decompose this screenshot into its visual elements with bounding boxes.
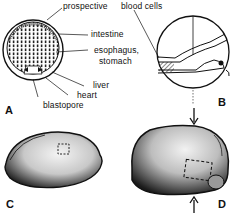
panel-label-c: C bbox=[6, 198, 14, 210]
panel-label-b: B bbox=[218, 96, 226, 108]
arrow-bottom-icon bbox=[190, 197, 198, 213]
panel-a-embryo bbox=[3, 20, 63, 80]
panel-c-embryo bbox=[5, 132, 102, 188]
panel-b-section bbox=[157, 16, 229, 104]
label-blastopore: blastopore bbox=[43, 101, 84, 110]
label-heart: heart bbox=[77, 91, 97, 100]
label-prospective: prospective bbox=[63, 2, 108, 11]
label-liver: liver bbox=[93, 81, 109, 90]
label-esophagus: esophagus, bbox=[94, 46, 139, 55]
panel-label-d: D bbox=[218, 198, 226, 210]
panel-d-embryo bbox=[132, 126, 229, 195]
label-intestine: intestine bbox=[91, 30, 124, 39]
label-blood-cells: blood cells bbox=[121, 2, 162, 11]
label-stomach: stomach bbox=[99, 57, 132, 66]
panel-label-a: A bbox=[5, 104, 13, 116]
arrow-top-icon bbox=[190, 108, 198, 124]
